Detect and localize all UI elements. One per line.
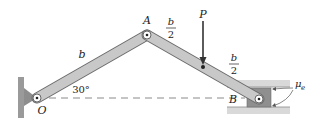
load-point: [201, 65, 205, 69]
label-pin-o: O: [37, 104, 46, 117]
label-segment-p-b: b 2: [229, 52, 239, 76]
pin-b: [255, 95, 263, 103]
member-oa: [37, 35, 147, 98]
label-segment-a-p: b 2: [166, 16, 176, 40]
svg-text:b: b: [168, 16, 174, 27]
svg-text:e: e: [301, 84, 305, 92]
svg-text:2: 2: [231, 65, 237, 76]
label-angle: 30°: [72, 84, 90, 95]
label-member-oa-length: b: [78, 48, 85, 61]
load-arrow-icon: [200, 21, 207, 65]
label-pin-a: A: [142, 14, 151, 27]
label-pin-b: B: [228, 93, 237, 106]
friction-leader-lines: [272, 87, 293, 107]
label-load: P: [198, 8, 207, 21]
svg-text:2: 2: [168, 29, 174, 40]
linkage-diagram: A b 30° O P b 2 b 2 B μ e: [0, 0, 321, 125]
label-friction-coefficient: μ e: [295, 78, 305, 92]
pin-o: [33, 94, 41, 102]
pin-a: [143, 31, 151, 39]
svg-text:b: b: [231, 52, 237, 63]
